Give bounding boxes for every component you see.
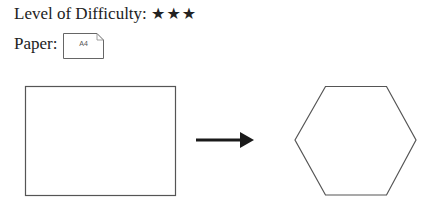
right-arrow-icon [196, 132, 254, 148]
rectangle-shape [26, 87, 176, 196]
hexagon-shape [295, 87, 416, 196]
fold-diagram [0, 0, 427, 200]
